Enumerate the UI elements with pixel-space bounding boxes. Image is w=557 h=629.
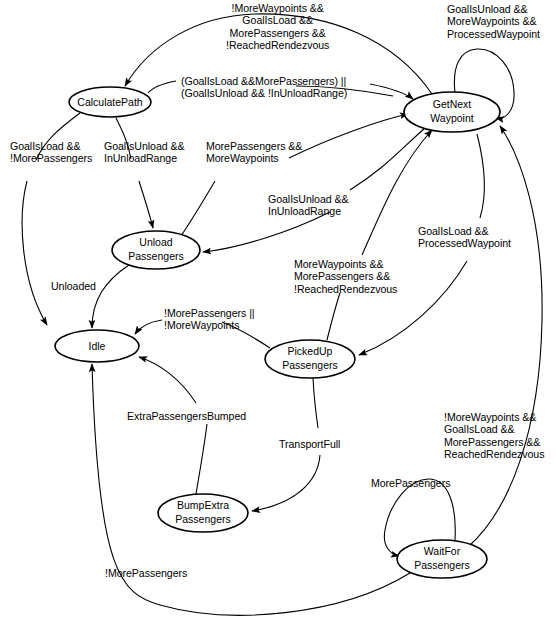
edge-getnextwaypoint-to-unloadpassengers-lower <box>203 212 330 252</box>
edge-getnextwaypoint-to-unloadpassengers <box>350 128 425 190</box>
edge-label-calculatepath-to-getnextwaypoint: (GoalIsLoad &&MorePassengers) || (GoalIs… <box>181 75 347 100</box>
edge-calculatepath-to-unloadpassengers-lower <box>139 181 153 228</box>
node-waitforpassengers-label-line2: Passengers <box>414 559 469 571</box>
node-pickeduppassengers-label-line2: Passengers <box>282 359 337 371</box>
edge-label-waitforpassengers-to-getnextwaypoint: !MoreWaypoints && GoalIsLoad && MorePass… <box>444 411 544 461</box>
edge-unloadpassengers-to-getnextwaypoint <box>181 181 215 236</box>
node-idle-label: Idle <box>89 340 106 352</box>
edge-label-pickeduppassengers-to-getnextwaypoint: MoreWaypoints && MorePassengers && !Reac… <box>294 258 397 295</box>
node-bumpextrapassengers[interactable]: BumpExtra Passengers <box>158 494 248 532</box>
edge-label-pickeduppassengers-to-bumpextrapassengers: TransportFull <box>279 438 340 450</box>
edge-label-getnextwaypoint-to-calculatepath: !MoreWaypoints && GoalIsLoad && MorePass… <box>226 2 329 52</box>
edge-label-unloadpassengers-to-idle: Unloaded <box>51 280 96 292</box>
state-machine-diagram: CalculatePath GetNext Waypoint Unload Pa… <box>0 0 557 629</box>
node-waitforpassengers[interactable]: WaitFor Passengers <box>397 540 487 578</box>
edge-label-calculatepath-to-idle: GoalIsLoad && !MorePassengers <box>10 140 92 165</box>
edge-label-bumpextrapassengers-to-idle: ExtraPassengersBumped <box>127 410 246 422</box>
edge-label-waitforpassengers-to-idle: !MorePassengers <box>105 567 187 579</box>
node-calculatepath[interactable]: CalculatePath <box>69 87 151 117</box>
edge-unloadpassengers-to-getnextwaypoint-upper <box>289 114 408 158</box>
edge-pickeduppassengers-to-bumpextrapassengers-lower <box>252 455 320 511</box>
edge-calculatepath-to-getnextwaypoint-tail <box>370 84 413 99</box>
edge-label-unloadpassengers-to-getnextwaypoint: MorePassengers && MoreWaypoints <box>206 140 302 165</box>
node-bumpextrapassengers-label-line2: Passengers <box>175 513 230 525</box>
edge-unloadpassengers-to-idle <box>92 265 129 328</box>
node-pickeduppassengers-label-line1: PickedUp <box>288 345 333 357</box>
edge-label-calculatepath-to-unloadpassengers: GoalIsUnload && InUnloadRange <box>104 140 185 165</box>
edge-pickeduppassengers-to-getnextwaypoint <box>327 293 340 340</box>
node-getnextwaypoint-label-line1: GetNext <box>433 98 472 110</box>
edge-label-getnextwaypoint-to-pickeduppassengers: GoalIsLoad && ProcessedWaypoint <box>418 225 511 250</box>
edge-pickeduppassengers-to-idle-left <box>135 320 162 334</box>
node-calculatepath-label: CalculatePath <box>77 96 143 108</box>
edge-pickeduppassengers-to-bumpextrapassengers <box>313 378 318 428</box>
edge-label-getnextwaypoint-to-unloadpassengers: GoalIsUnload && InUnloadRange <box>268 193 349 218</box>
edge-calculatepath-to-idle-lower <box>22 181 47 325</box>
node-getnextwaypoint[interactable]: GetNext Waypoint <box>404 92 500 132</box>
edge-label-waitforpassengers-self-loop: MorePassengers <box>371 477 450 489</box>
edge-label-getnextwaypoint-self-loop: GoalIsUnload && MoreWaypoints && Process… <box>447 3 540 40</box>
node-bumpextrapassengers-label-line1: BumpExtra <box>177 499 229 511</box>
node-getnextwaypoint-label-line2: Waypoint <box>430 112 473 124</box>
node-unloadpassengers-label-line2: Passengers <box>128 250 183 262</box>
edge-label-pickeduppassengers-to-idle: !MorePassengers || !MoreWaypoints <box>164 307 255 332</box>
node-waitforpassengers-label-line1: WaitFor <box>424 545 461 557</box>
edge-waitforpassengers-to-getnextwaypoint <box>468 126 542 547</box>
edge-calculatepath-label-leader <box>148 81 176 93</box>
edge-bumpextrapassengers-to-idle-upper <box>139 357 196 403</box>
edge-getnextwaypoint-to-pickeduppassengers <box>477 134 484 218</box>
node-idle[interactable]: Idle <box>55 330 139 362</box>
edge-bumpextrapassengers-to-idle <box>196 424 207 494</box>
node-pickeduppassengers[interactable]: PickedUp Passengers <box>265 340 355 378</box>
node-unloadpassengers-label-line1: Unload <box>139 236 172 248</box>
node-unloadpassengers[interactable]: Unload Passengers <box>112 231 200 269</box>
